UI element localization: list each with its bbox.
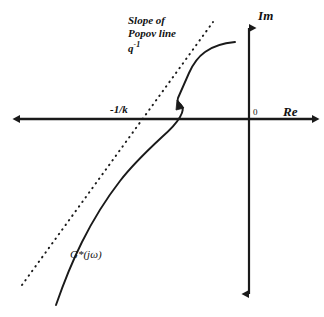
intercept-label-minus-one-over-k: -1/k bbox=[110, 103, 128, 116]
g-star-curve bbox=[56, 42, 235, 305]
popov-plot-figure: Slope ofPopov lineq-1 Im Re -1/k 0 G*(jω… bbox=[0, 0, 324, 317]
popov-line-annotation: Slope ofPopov lineq-1 bbox=[128, 14, 176, 55]
curve-label-g-star: G*(jω) bbox=[70, 248, 102, 261]
popov-slope-exponent: -1 bbox=[134, 40, 141, 49]
popov-line bbox=[22, 22, 213, 285]
origin-label: 0 bbox=[253, 107, 258, 118]
imaginary-axis-label: Im bbox=[258, 8, 274, 23]
popov-annotation-line1: Slope of bbox=[128, 14, 165, 26]
curve-cusp-marker bbox=[176, 100, 184, 110]
popov-annotation-line2: Popov line bbox=[128, 27, 176, 39]
real-axis-label: Re bbox=[283, 104, 298, 119]
curve-label-argument: (jω) bbox=[83, 248, 101, 260]
curve-label-base: G bbox=[70, 248, 78, 260]
